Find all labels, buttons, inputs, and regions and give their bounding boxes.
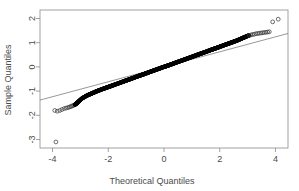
y-tick-label: -2 xyxy=(27,111,37,119)
y-tick-label: 1 xyxy=(27,40,37,45)
qq-plot-canvas: -4-2024 210-1-2-3 Theoretical Quantiles … xyxy=(0,0,299,191)
x-tick-label: -4 xyxy=(49,154,57,164)
x-tick-label: 0 xyxy=(161,154,166,164)
y-tick-label: -3 xyxy=(27,136,37,144)
x-axis-title: Theoretical Quantiles xyxy=(109,176,195,186)
qq-plot-figure: -4-2024 210-1-2-3 Theoretical Quantiles … xyxy=(0,0,299,191)
y-tick-label: 2 xyxy=(27,16,37,21)
y-axis-title: Sample Quantiles xyxy=(3,44,13,116)
x-tick-label: 4 xyxy=(273,154,278,164)
y-tick-label: -1 xyxy=(27,87,37,95)
x-tick-label: -2 xyxy=(104,154,112,164)
figure-background xyxy=(0,0,299,191)
y-tick-label: 0 xyxy=(27,64,37,69)
x-tick-label: 2 xyxy=(217,154,222,164)
